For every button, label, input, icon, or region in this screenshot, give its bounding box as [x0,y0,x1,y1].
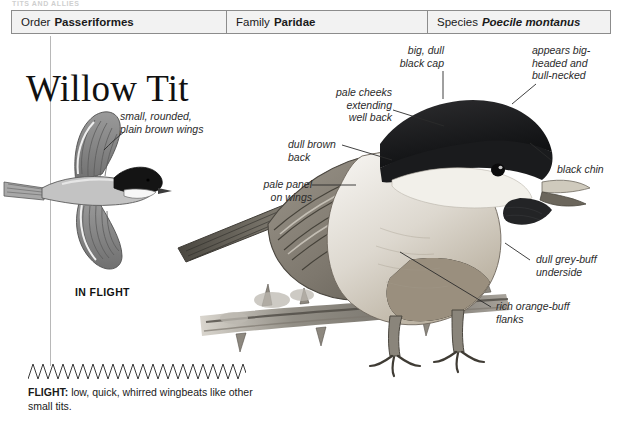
flight-white-cheek [124,189,156,198]
in-flight-label: IN FLIGHT [75,286,130,298]
annotation-wing-panel: pale panel on wings [242,178,312,203]
flight-bird-eye [146,178,149,181]
annotation-cheeks: pale cheeks extending well back [312,86,392,124]
species-value: Poecile montanus [482,16,580,28]
flight-heading: FLIGHT: [28,386,68,398]
order-value: Passeriformes [54,16,133,28]
annotation-underside: dull grey-buff underside [536,253,620,278]
running-head: TITS AND ALLIES [12,0,80,8]
flight-description: FLIGHT: low, quick, whirred wingbeats li… [28,385,260,413]
order-label: Order [21,16,50,28]
bird-bill-lower [540,192,586,206]
annotation-cap: big, dull black cap [372,44,444,69]
family-value: Paridae [274,16,316,28]
annotation-back: dull brown back [288,138,350,163]
flight-bird-body-group [4,112,172,269]
taxonomy-cell-species: Species Poecile montanus [427,11,610,33]
taxonomy-cell-family: Family Paridae [226,11,427,33]
annotation-flanks: rich orange-buff flanks [496,300,594,325]
annotation-head-shape: appears big- headed and bull-necked [532,44,618,82]
flight-sonogram-waveform [28,361,246,381]
taxonomy-header-bar: Order Passeriformes Family Paridae Speci… [11,10,611,34]
field-guide-page: TITS AND ALLIES Order Passeriformes Fami… [0,0,621,431]
bird-eye [491,164,505,177]
annotation-wings: small, rounded, plain brown wings [120,110,203,135]
family-label: Family [236,16,270,28]
annotation-chin: black chin [557,163,604,176]
bird-bill-upper [542,180,590,193]
species-label: Species [437,16,478,28]
taxonomy-cell-order: Order Passeriformes [12,11,226,33]
